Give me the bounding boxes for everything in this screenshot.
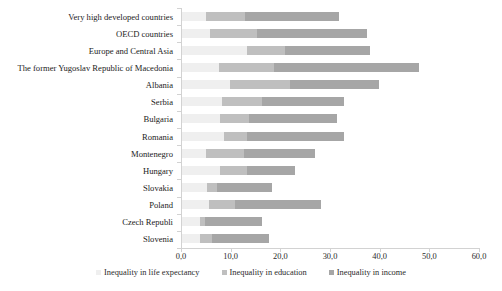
legend-item[interactable]: Inequality in education [222,268,307,277]
bar-segment-life-expectancy [182,97,222,106]
category-label: Slovakia [143,181,173,195]
bar-segment-life-expectancy [182,63,219,72]
category-label: Romania [142,130,173,144]
category-label: Montenegro [131,147,173,161]
bar-segment-life-expectancy [182,29,210,38]
chart-row: Bulgaria [181,111,479,127]
x-tick-label: 40,0 [360,252,400,261]
chart-row: Hungary [181,163,479,179]
bar-segment-life-expectancy [182,166,220,175]
legend-item[interactable]: Inequality in income [329,268,406,277]
legend-swatch-icon [222,270,227,275]
bar-segment-life-expectancy [182,234,200,243]
bar-segment-education [210,29,257,38]
bar-segment-income [212,234,269,243]
bar-segment-life-expectancy [182,132,224,141]
category-label: OECD countries [116,27,173,41]
chart-row: The former Yugoslav Republic of Macedoni… [181,60,479,76]
bar-segment-education [222,97,262,106]
y-tick-mark [177,77,181,78]
x-tick-label: 10,0 [211,252,251,261]
x-tick-label: 50,0 [409,252,449,261]
y-tick-mark [177,197,181,198]
y-tick-mark [177,145,181,146]
bar-segment-income [247,132,344,141]
bar-segment-education [209,200,235,209]
legend-swatch-icon [96,270,101,275]
y-tick-mark [177,42,181,43]
bar-segment-life-expectancy [182,80,230,89]
category-label: The former Yugoslav Republic of Macedoni… [17,61,173,75]
category-label: Europe and Central Asia [89,44,173,58]
bar-segment-income [244,149,315,158]
plot-area: Very high developed countriesOECD countr… [181,8,479,248]
chart-row: Montenegro [181,146,479,162]
bar-segment-income [257,29,367,38]
category-label: Bulgaria [143,112,173,126]
chart-legend: Inequality in life expectancyInequality … [0,268,502,277]
bar-segment-education [247,46,285,55]
chart-row: Serbia [181,94,479,110]
legend-item[interactable]: Inequality in life expectancy [96,268,200,277]
bar-segment-education [230,80,290,89]
bar-segment-life-expectancy [182,149,206,158]
bar-segment-life-expectancy [182,46,247,55]
bar-segment-income [290,80,379,89]
bar-segment-income [247,166,295,175]
legend-label: Inequality in life expectancy [104,268,200,277]
x-tick-label: 20,0 [260,252,300,261]
y-tick-mark [177,128,181,129]
category-label: Czech Republi [122,215,173,229]
chart-row: Albania [181,77,479,93]
bar-segment-education [219,63,274,72]
legend-label: Inequality in income [337,268,406,277]
y-tick-mark [177,214,181,215]
y-tick-mark [177,111,181,112]
bar-segment-education [220,114,249,123]
legend-label: Inequality in education [230,268,307,277]
chart-row: Slovenia [181,231,479,247]
bar-segment-education [206,12,245,21]
bar-segment-income [285,46,370,55]
category-label: Poland [149,198,173,212]
chart-row: Czech Republi [181,214,479,230]
bar-segment-education [224,132,247,141]
y-tick-mark [177,162,181,163]
chart-row: OECD countries [181,26,479,42]
y-tick-mark [177,59,181,60]
category-label: Slovenia [143,232,173,246]
bar-segment-life-expectancy [182,217,200,226]
category-label: Serbia [151,95,173,109]
y-tick-mark [177,179,181,180]
y-tick-mark [177,248,181,249]
chart-row: Romania [181,129,479,145]
bar-segment-education [220,166,247,175]
bar-segment-education [207,183,217,192]
category-label: Albania [146,78,173,92]
bar-segment-education [200,234,212,243]
stacked-bar-chart: Very high developed countriesOECD countr… [0,0,502,291]
chart-row: Very high developed countries [181,9,479,25]
bar-segment-life-expectancy [182,12,206,21]
y-tick-mark [177,25,181,26]
bar-segment-income [249,114,337,123]
bar-segment-income [274,63,419,72]
bar-segment-life-expectancy [182,183,207,192]
y-tick-mark [177,8,181,9]
y-tick-mark [177,94,181,95]
chart-row: Slovakia [181,180,479,196]
category-label: Very high developed countries [68,10,173,24]
bar-segment-life-expectancy [182,114,220,123]
category-label: Hungary [143,164,173,178]
chart-row: Europe and Central Asia [181,43,479,59]
bar-segment-education [206,149,244,158]
bar-segment-life-expectancy [182,200,209,209]
bar-segment-income [245,12,339,21]
bar-segment-income [262,97,344,106]
x-tick-label: 60,0 [459,252,499,261]
bar-segment-income [205,217,262,226]
bar-segment-income [235,200,321,209]
x-tick-label: 30,0 [310,252,350,261]
bar-segment-income [217,183,272,192]
x-tick-label: 0,0 [161,252,201,261]
